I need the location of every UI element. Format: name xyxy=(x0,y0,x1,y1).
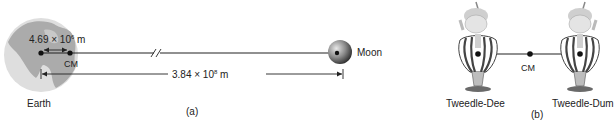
tweedle-dee-figure xyxy=(459,2,498,92)
moon xyxy=(328,40,352,64)
cm-label-a: CM xyxy=(64,60,78,69)
tweedle-dum-label: Tweedle-Dum xyxy=(552,99,614,109)
tweedle-dee-label: Tweedle-Dee xyxy=(446,99,505,109)
cm-dot-b xyxy=(527,51,533,57)
moon-center-dot xyxy=(335,51,339,55)
cm-dot-a xyxy=(67,50,72,55)
earth-center-dot xyxy=(38,50,43,55)
tweedle-dum-figure xyxy=(561,2,600,92)
earth-cm-distance-mantissa: 4.69 × 10 xyxy=(29,34,71,45)
earth-cm-distance-label: 4.69 × 106 m xyxy=(29,34,85,45)
panel-b-label: (b) xyxy=(531,110,543,120)
earth-cm-distance-unit: m xyxy=(74,34,85,45)
earth-moon-distance-unit: m xyxy=(217,69,228,80)
panel-a-label: (a) xyxy=(186,107,198,117)
earth-label: Earth xyxy=(27,99,51,109)
moon-label: Moon xyxy=(357,48,382,58)
cm-label-b: CM xyxy=(521,64,535,73)
earth-moon-distance-label: 3.84 × 108 m xyxy=(172,69,228,80)
earth-moon-distance-mantissa: 3.84 × 10 xyxy=(172,69,214,80)
